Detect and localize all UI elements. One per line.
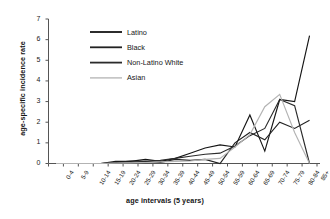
legend-label-black: Black [127, 43, 145, 52]
y-axis-tick-label: 5 [27, 56, 41, 63]
data-series-line-latino [56, 36, 310, 164]
chart-figure: 01234567 0-45-910-1415-1920-2425-2930-34… [0, 0, 330, 219]
y-axis-tick-label: 4 [27, 76, 41, 83]
y-axis-tick-label: 6 [27, 35, 41, 42]
y-axis-tick-label: 1 [27, 138, 41, 145]
axis-lines [49, 19, 321, 164]
legend-label-latino: Latino [127, 28, 147, 37]
y-axis-tick-label: 3 [27, 97, 41, 104]
y-axis-tick-label: 2 [27, 118, 41, 125]
legend-label-non-latino-white: Non-Latino White [127, 58, 183, 67]
y-axis-title: age-specific incidence rate [18, 19, 27, 159]
data-series-group [56, 36, 310, 164]
legend-swatch-group [90, 32, 122, 78]
chart-plot-area [0, 0, 330, 219]
x-axis-title: age intervals (5 years) [0, 196, 330, 205]
legend-label-asian: Asian [127, 73, 145, 82]
y-axis-tick-label: 7 [27, 15, 41, 22]
y-axis-tick-label: 0 [27, 159, 41, 166]
